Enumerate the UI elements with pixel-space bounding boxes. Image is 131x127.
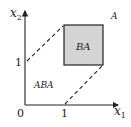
x-axis-label: x1 — [114, 104, 126, 120]
dashed-line-lower — [65, 66, 102, 104]
y-tick-1: 1 — [15, 56, 22, 69]
region-label-outer: A — [110, 11, 118, 21]
dashed-line-upper — [27, 26, 63, 61]
region-label-lower-left: ABA — [33, 80, 54, 90]
diagram-canvas: x2 x1 0 1 1 A BA ABA — [0, 0, 131, 127]
x-tick-1: 1 — [61, 107, 68, 120]
y-axis-label: x2 — [10, 6, 22, 22]
origin-label: 0 — [17, 107, 24, 120]
region-label-box: BA — [75, 41, 91, 52]
